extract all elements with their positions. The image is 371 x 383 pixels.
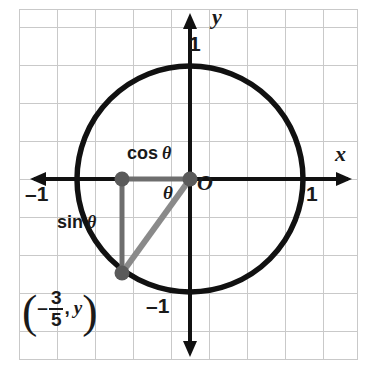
sin-text: sin — [57, 212, 83, 232]
open-paren: ( — [22, 286, 37, 337]
y-variable: y — [74, 297, 82, 318]
fraction-denominator: 5 — [49, 310, 64, 330]
cos-text: cos — [127, 143, 158, 163]
y-axis-arrow-up — [183, 13, 197, 29]
y-axis-arrow-down — [183, 341, 197, 357]
sin-theta-label: sinθ — [57, 213, 96, 231]
reference-triangle — [122, 179, 190, 273]
x-axis-tick-label-positive-one: 1 — [306, 183, 318, 204]
angle-theta-label: θ — [163, 183, 173, 202]
y-axis-label: y — [212, 6, 222, 28]
x-axis-tick-label-negative-one: –1 — [25, 183, 48, 204]
negative-sign: – — [37, 297, 48, 318]
point-coordinate-label: (–35,y) — [22, 288, 98, 330]
fraction-three-fifths: 35 — [49, 288, 64, 330]
y-axis-tick-label-positive-one: 1 — [189, 33, 201, 54]
x-axis-label: x — [335, 143, 346, 165]
unit-circle-figure: y x 1 1 –1 –1 O cosθ sinθ θ (–35,y) — [0, 0, 371, 383]
circle-point — [115, 266, 130, 281]
cos-theta-symbol: θ — [162, 143, 171, 163]
origin-label: O — [197, 172, 213, 194]
origin-point — [183, 172, 198, 187]
cos-theta-label: cosθ — [127, 144, 171, 162]
sin-theta-symbol: θ — [87, 212, 96, 232]
x-axis-arrow-right — [336, 172, 352, 186]
y-axis-tick-label-negative-one: –1 — [146, 295, 169, 316]
fraction-numerator: 3 — [49, 288, 64, 310]
comma-separator: , — [64, 297, 69, 318]
radius-segment — [122, 179, 190, 273]
close-paren: ) — [82, 286, 97, 337]
x-axis-foot-point — [115, 172, 130, 187]
